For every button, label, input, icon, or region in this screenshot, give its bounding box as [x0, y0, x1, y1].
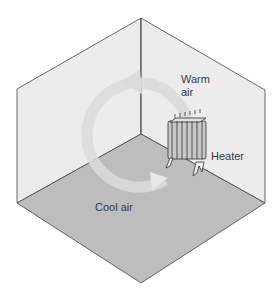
warm-air-label-line2: air: [181, 86, 210, 99]
convection-diagram: Warm air Heater Cool air: [0, 0, 276, 292]
warm-air-label: Warm air: [181, 73, 210, 99]
cool-air-label: Cool air: [95, 201, 133, 214]
heater-label: Heater: [211, 150, 244, 163]
room-illustration: [0, 0, 276, 292]
warm-air-label-line1: Warm: [181, 73, 210, 86]
